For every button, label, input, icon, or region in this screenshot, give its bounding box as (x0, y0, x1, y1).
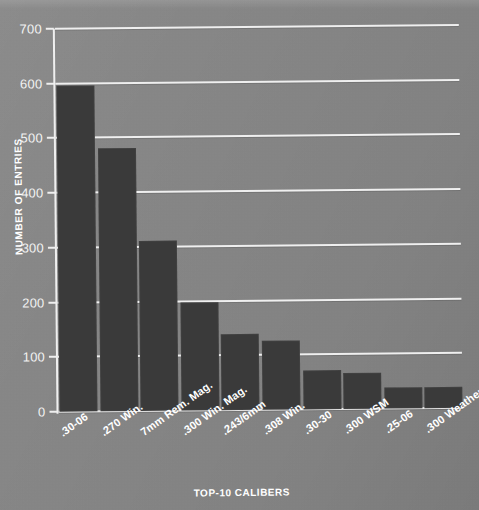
y-axis-tick-label: 0 (0, 404, 46, 419)
bar (262, 340, 301, 410)
y-axis-tick (46, 28, 54, 30)
bar (303, 370, 341, 410)
x-axis-tick-label: .25-06 (382, 407, 415, 435)
y-axis-tick-label: 700 (0, 21, 42, 36)
y-axis-title: NUMBER OF ENTRIES (9, 132, 28, 262)
y-axis-ticks (0, 0, 477, 2)
y-axis-tick-label: 100 (0, 350, 45, 365)
chart-page-background: 0100200300400500600700 NUMBER OF ENTRIES… (0, 0, 479, 510)
bar (139, 241, 179, 411)
gridline (55, 79, 459, 85)
bars-group (0, 0, 477, 2)
gridlines-group (0, 0, 477, 2)
y-axis-tick (49, 411, 57, 413)
x-axis-title: TOP-10 CALIBERS (2, 485, 479, 501)
x-axis-tick-labels: .30-06.270 Win.7mm Rem. Mag..300 Win. Ma… (0, 0, 477, 2)
y-axis-tick (47, 192, 55, 194)
gridline (55, 24, 459, 30)
y-axis-tick (46, 82, 54, 84)
y-axis-tick-label: 600 (0, 76, 42, 91)
gridline (56, 133, 460, 139)
x-axis-tick-label: .30-06 (57, 410, 90, 438)
y-axis-tick (48, 247, 56, 249)
y-axis-tick (49, 356, 57, 358)
bar (98, 148, 139, 411)
x-axis-tick-label: .30-30 (301, 408, 334, 436)
bar-chart: 0100200300400500600700 NUMBER OF ENTRIES… (0, 0, 479, 510)
bar (56, 86, 97, 412)
y-axis-tick (47, 137, 55, 139)
y-axis-tick (48, 301, 56, 303)
y-axis-tick-label: 200 (0, 295, 45, 310)
